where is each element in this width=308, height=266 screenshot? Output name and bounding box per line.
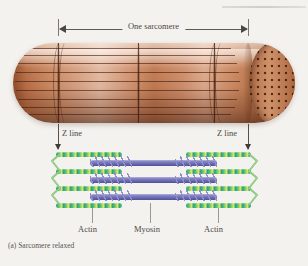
z-line-arrow-left-icon (58, 124, 59, 149)
fiber-striation (18, 99, 237, 100)
actin-filament (56, 203, 122, 208)
myosin-head-group (175, 190, 217, 201)
figure-caption: (a) Sarcomere relaxed (8, 241, 74, 250)
span-arrowhead-left-icon (59, 25, 66, 33)
filament-schematic (0, 148, 308, 220)
myosin-leader (150, 203, 151, 223)
fiber-chevron (215, 43, 230, 123)
myosin-head-group (90, 173, 132, 184)
page-rule-artifact (222, 6, 306, 8)
myosin-head-group (90, 190, 132, 201)
span-arrowhead-right-icon (241, 25, 248, 33)
muscle-fiber-cylinder (13, 43, 295, 123)
myosin-label: Myosin (134, 224, 160, 234)
fiber-striation (15, 81, 240, 82)
fiber-striation (16, 72, 239, 73)
z-line-arrow-right-icon (248, 124, 249, 149)
myosin-head-group (175, 173, 217, 184)
z-line-right-zigzag (247, 148, 259, 214)
actin-left-leader (92, 208, 93, 223)
fiber-chevron (59, 43, 74, 123)
z-line-label-right: Z line (217, 128, 237, 138)
fiber-body (13, 43, 295, 123)
fiber-cross-section (249, 43, 295, 123)
fiber-striation (19, 55, 235, 56)
sarcomere-span-bracket: One sarcomere (58, 19, 249, 39)
fiber-z-line-band (57, 43, 60, 123)
fiber-z-line-band (137, 43, 140, 123)
fiber-striation (16, 90, 239, 91)
myosin-head-group (175, 156, 217, 167)
actin-label-right: Actin (204, 224, 223, 234)
fiber-striation (21, 107, 235, 108)
sarcomere-figure: One sarcomere Z line Z line (0, 0, 308, 266)
myosin-head-group (90, 156, 132, 167)
fiber-z-line-band (213, 43, 216, 123)
z-line-left-zigzag (50, 148, 62, 214)
fiber-striation (17, 63, 237, 64)
actin-label-left: Actin (78, 224, 97, 234)
z-line-label-left: Z line (62, 128, 82, 138)
span-tick-right (248, 19, 249, 36)
sarcomere-span-label: One sarcomere (122, 21, 185, 31)
actin-right-leader (218, 208, 219, 223)
